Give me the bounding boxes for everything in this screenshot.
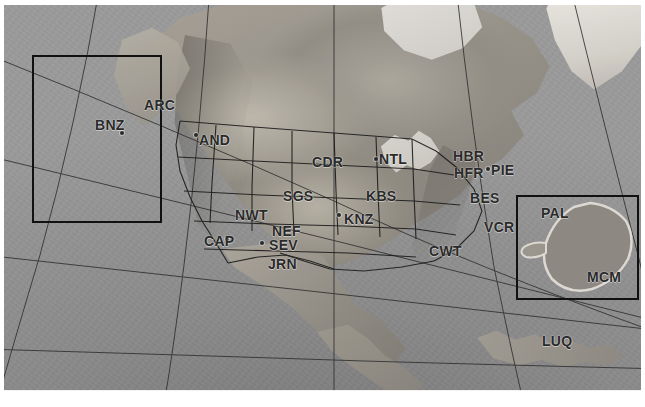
site-label-sgs[interactable]: SGS (283, 189, 313, 203)
site-label-cwt[interactable]: CWT (429, 244, 462, 258)
site-label-nef[interactable]: NEF (272, 224, 301, 238)
site-label-pal[interactable]: PAL (541, 206, 569, 220)
site-label-luq[interactable]: LUQ (542, 334, 572, 348)
site-label-bnz[interactable]: BNZ (95, 118, 125, 132)
site-marker-dot[interactable] (194, 133, 198, 137)
site-label-cdr[interactable]: CDR (312, 155, 343, 169)
site-label-hfr[interactable]: HFR (454, 166, 484, 180)
site-label-pie[interactable]: PIE (491, 163, 514, 177)
site-label-ntl[interactable]: NTL (379, 152, 407, 166)
site-label-knz[interactable]: KNZ (344, 212, 374, 226)
site-marker-dot[interactable] (374, 157, 378, 161)
site-label-bes[interactable]: BES (470, 191, 500, 205)
site-label-hbr[interactable]: HBR (453, 149, 484, 163)
site-label-mcm[interactable]: MCM (587, 270, 621, 284)
site-label-and[interactable]: AND (199, 133, 230, 147)
site-label-jrn[interactable]: JRN (268, 257, 297, 271)
map-canvas[interactable]: ARCBNZANDCDRNTLHBRHFRPIESGSKBSBESNWTKNZV… (4, 5, 641, 390)
page-margin-left (0, 0, 4, 407)
site-label-cap[interactable]: CAP (204, 234, 234, 248)
page-margin-right (641, 0, 645, 407)
map-screenshot: ARCBNZANDCDRNTLHBRHFRPIESGSKBSBESNWTKNZV… (0, 0, 645, 407)
site-label-kbs[interactable]: KBS (366, 189, 396, 203)
page-margin-top (0, 0, 645, 5)
alaska-inset-frame[interactable] (32, 55, 162, 223)
site-marker-dot[interactable] (260, 241, 264, 245)
site-label-sev[interactable]: SEV (269, 238, 298, 252)
site-label-arc[interactable]: ARC (144, 98, 175, 112)
site-marker-dot[interactable] (337, 213, 341, 217)
site-label-vcr[interactable]: VCR (484, 220, 514, 234)
site-label-nwt[interactable]: NWT (235, 208, 268, 222)
page-margin-bottom (0, 391, 645, 407)
site-marker-dot[interactable] (486, 167, 490, 171)
